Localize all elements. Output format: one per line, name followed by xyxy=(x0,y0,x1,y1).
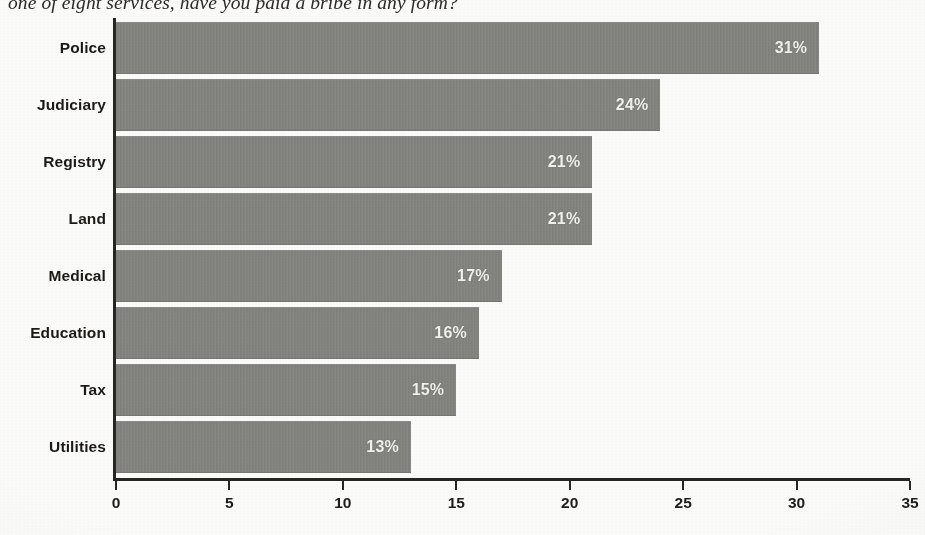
category-label-wrap: Medical xyxy=(0,250,106,302)
bar-value-label: 21% xyxy=(548,153,581,171)
bar-registry xyxy=(116,136,592,188)
x-tick xyxy=(682,481,684,490)
bar-value-label: 17% xyxy=(457,267,490,285)
bar-value-label: 13% xyxy=(366,438,399,456)
bar-row: 17% xyxy=(116,250,502,302)
x-tick xyxy=(228,481,230,490)
category-label-police: Police xyxy=(2,39,106,57)
x-axis-line xyxy=(113,478,910,481)
bar-land xyxy=(116,193,592,245)
bar-value-label: 15% xyxy=(412,381,445,399)
category-label-wrap: Registry xyxy=(0,136,106,188)
category-label-wrap: Judiciary xyxy=(0,79,106,131)
x-tick xyxy=(909,481,911,490)
x-tick xyxy=(115,481,117,490)
category-label-utilities: Utilities xyxy=(2,438,106,456)
category-label-wrap: Land xyxy=(0,193,106,245)
bar-police xyxy=(116,22,819,74)
bar-chart: one of eight services, have you paid a b… xyxy=(0,0,925,535)
category-label-registry: Registry xyxy=(2,153,106,171)
x-tick-label: 20 xyxy=(540,494,600,512)
x-tick-label: 35 xyxy=(880,494,925,512)
chart-title-text: one of eight services, have you paid a b… xyxy=(8,0,908,14)
x-tick-label: 15 xyxy=(426,494,486,512)
bar-education xyxy=(116,307,479,359)
bar-row: 24% xyxy=(116,79,660,131)
bar-row: 21% xyxy=(116,193,592,245)
category-label-education: Education xyxy=(2,324,106,342)
category-label-wrap: Tax xyxy=(0,364,106,416)
x-tick-label: 25 xyxy=(653,494,713,512)
bar-row: 16% xyxy=(116,307,479,359)
x-tick xyxy=(455,481,457,490)
x-tick xyxy=(569,481,571,490)
bar-value-label: 16% xyxy=(434,324,467,342)
category-label-land: Land xyxy=(2,210,106,228)
category-label-wrap: Police xyxy=(0,22,106,74)
bar-row: 13% xyxy=(116,421,411,473)
bar-judiciary xyxy=(116,79,660,131)
chart-title: one of eight services, have you paid a b… xyxy=(8,0,908,14)
bar-row: 15% xyxy=(116,364,456,416)
x-tick-label: 30 xyxy=(767,494,827,512)
bar-row: 21% xyxy=(116,136,592,188)
bar-value-label: 31% xyxy=(775,39,808,57)
x-tick-label: 5 xyxy=(199,494,259,512)
bar-row: 31% xyxy=(116,22,819,74)
category-label-wrap: Education xyxy=(0,307,106,359)
bar-value-label: 24% xyxy=(616,96,649,114)
x-tick-label: 0 xyxy=(86,494,146,512)
bar-medical xyxy=(116,250,502,302)
x-tick-label: 10 xyxy=(313,494,373,512)
category-label-tax: Tax xyxy=(2,381,106,399)
category-label-medical: Medical xyxy=(2,267,106,285)
bar-value-label: 21% xyxy=(548,210,581,228)
x-tick xyxy=(342,481,344,490)
x-tick xyxy=(796,481,798,490)
category-label-judiciary: Judiciary xyxy=(2,96,106,114)
category-label-wrap: Utilities xyxy=(0,421,106,473)
bar-tax xyxy=(116,364,456,416)
